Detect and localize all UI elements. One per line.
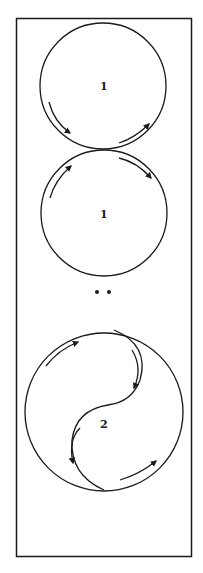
circle-1-label: 1 [100,80,108,93]
arrow-icon [120,461,156,480]
diagram-canvas: 1 1 2 [0,0,203,573]
yin-yang-label: 2 [100,418,108,431]
arrow-icon [49,102,70,133]
yin-yang-circle: 2 [25,330,183,491]
separator-dots [95,290,111,294]
circle-2: 1 [41,150,167,276]
circle-1: 1 [40,23,166,149]
s-curve [72,330,142,490]
arrow-icon [50,166,71,198]
circle-2-label: 1 [100,208,108,221]
arrow-icon [132,350,138,388]
arrow-icon [119,158,151,178]
